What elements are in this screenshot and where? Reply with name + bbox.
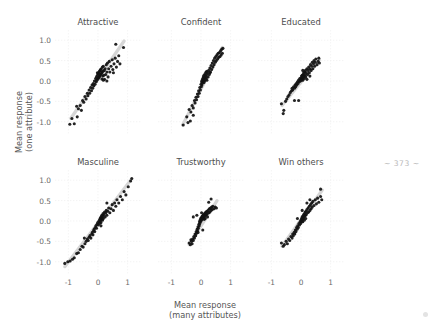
data-point: [73, 256, 76, 259]
data-points: [68, 43, 125, 126]
data-point: [305, 78, 308, 81]
panel-plot-area: [55, 170, 141, 274]
data-point: [91, 233, 94, 236]
data-point: [105, 70, 108, 73]
data-point: [296, 217, 299, 220]
data-point: [206, 215, 209, 218]
y-tick-label: 1.0: [25, 176, 51, 185]
data-point: [317, 201, 320, 204]
grid-lines: [55, 30, 141, 134]
data-point: [63, 262, 66, 265]
x-tick-label: 0: [193, 278, 209, 287]
page-number: ~ 373 ~: [384, 159, 420, 168]
x-tick-label: -1: [60, 278, 76, 287]
data-point: [305, 201, 308, 204]
data-point: [194, 101, 197, 104]
y-tick-label: -1.0: [25, 257, 51, 266]
data-point: [113, 201, 116, 204]
data-point: [205, 70, 208, 73]
facet-panel: Educated: [258, 30, 344, 134]
data-point: [308, 75, 311, 78]
data-point: [286, 242, 289, 245]
data-point: [122, 46, 125, 49]
data-point: [127, 185, 130, 188]
data-point: [108, 60, 111, 63]
scan-artifact: [423, 312, 428, 317]
data-point: [77, 107, 80, 110]
data-point: [96, 71, 99, 74]
y-tick-label: 0.0: [25, 216, 51, 225]
panel-title: Trustworthy: [158, 157, 244, 167]
data-point: [108, 70, 111, 73]
data-point: [205, 79, 208, 82]
data-points: [280, 57, 321, 116]
data-point: [77, 251, 80, 254]
panel-plot-area: [158, 30, 244, 134]
data-point: [124, 193, 127, 196]
data-point: [104, 67, 107, 70]
data-point: [189, 119, 192, 122]
data-point: [316, 197, 319, 200]
data-point: [112, 71, 115, 74]
data-point: [79, 104, 82, 107]
y-tick-label: -0.5: [25, 237, 51, 246]
data-point: [185, 115, 188, 118]
data-point: [107, 75, 110, 78]
data-point: [99, 224, 102, 227]
x-tick-label: -1: [163, 278, 179, 287]
data-point: [109, 65, 112, 68]
data-point: [112, 62, 115, 65]
data-point: [111, 58, 114, 61]
data-point: [102, 79, 105, 82]
data-point: [118, 62, 121, 65]
data-point: [79, 248, 82, 251]
data-point: [82, 101, 85, 104]
x-tick-label: 0: [293, 278, 309, 287]
data-point: [191, 242, 194, 245]
data-point: [215, 206, 218, 209]
data-point: [200, 211, 203, 214]
data-point: [114, 43, 117, 46]
data-point: [301, 69, 304, 72]
data-point: [208, 71, 211, 74]
data-point: [201, 228, 204, 231]
data-point: [319, 195, 322, 198]
data-point: [301, 209, 304, 212]
x-tick-label: 1: [223, 278, 239, 287]
data-point: [108, 211, 111, 214]
data-point: [117, 54, 120, 57]
x-tick-label: 0: [90, 278, 106, 287]
data-point: [107, 67, 110, 70]
data-point: [114, 57, 117, 60]
data-point: [196, 231, 199, 234]
data-point: [119, 195, 122, 198]
x-axis-label: Mean response (many attributes): [40, 300, 370, 320]
data-point: [282, 109, 285, 112]
data-point: [93, 230, 96, 233]
data-point: [82, 246, 85, 249]
figure-root: Mean response (one attribute) Mean respo…: [0, 0, 442, 335]
data-point: [115, 198, 118, 201]
panel-title: Masculine: [55, 157, 141, 167]
data-point: [105, 201, 108, 204]
data-point: [192, 114, 195, 117]
panel-title: Confident: [158, 17, 244, 27]
data-point: [105, 214, 108, 217]
panel-plot-area: [258, 30, 344, 134]
facet-panel: Masculine: [55, 170, 141, 274]
data-point: [196, 95, 199, 98]
facet-panel: Win others: [258, 170, 344, 274]
data-point: [95, 227, 98, 230]
data-point: [320, 198, 323, 201]
data-point: [288, 239, 291, 242]
data-point: [192, 106, 195, 109]
data-point: [80, 109, 83, 112]
data-point: [123, 190, 126, 193]
panel-title: Educated: [258, 17, 344, 27]
data-point: [83, 237, 86, 240]
data-point: [76, 115, 79, 118]
data-point: [192, 215, 195, 218]
data-point: [314, 57, 317, 60]
panel-title: Win others: [258, 157, 344, 167]
panel-plot-area: [258, 170, 344, 274]
